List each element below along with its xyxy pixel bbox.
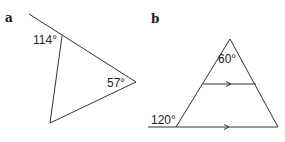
angle-label-120: 120°: [151, 113, 176, 127]
figure-a-extended-side: [29, 14, 136, 82]
angle-label-114: 114°: [33, 33, 57, 47]
angle-label-60: 60°: [218, 52, 236, 66]
figure-b-right-side: [230, 39, 278, 127]
figure-a-left-side: [50, 36, 62, 123]
figure-a: a 114° 57°: [5, 11, 136, 123]
angle-label-57: 57°: [107, 76, 125, 90]
figure-a-label: a: [5, 11, 13, 25]
figure-b: b 60° 120°: [148, 12, 278, 130]
figure-b-label: b: [151, 12, 159, 26]
diagram-canvas: a 114° 57° b 60° 120°: [0, 0, 285, 142]
